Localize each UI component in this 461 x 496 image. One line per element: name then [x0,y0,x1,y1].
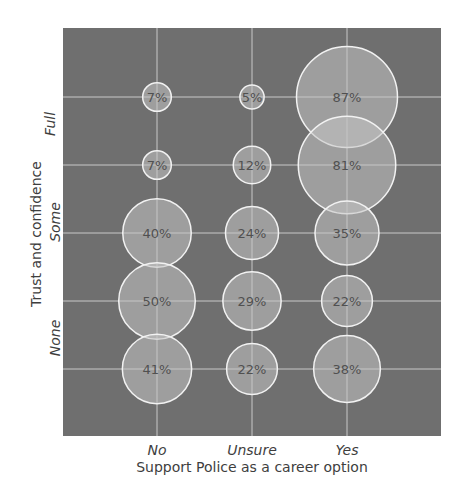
bubble: 7% [143,151,172,180]
bubble-label: 29% [238,294,267,309]
x-tick-yes: Yes [336,442,359,458]
bubbles-layer: 7%5%87%7%12%81%40%24%35%50%29%22%41%22%3… [119,47,398,404]
bubble-label: 87% [333,90,362,105]
bubble-chart: 7%5%87%7%12%81%40%24%35%50%29%22%41%22%3… [0,0,461,496]
bubble: 5% [240,85,264,109]
bubble: 7% [143,83,172,112]
bubble-label: 35% [333,226,362,241]
bubble: 22% [322,276,373,327]
bubble: 24% [225,206,278,259]
bubble: 35% [315,201,379,265]
bubble-label: 7% [147,158,168,173]
bubble-label: 5% [242,90,263,105]
bubble-label: 50% [143,294,172,309]
bubble: 12% [233,146,271,184]
bubble-label: 41% [143,362,172,377]
bubble: 41% [122,334,191,403]
x-tick-unsure: Unsure [227,442,277,458]
bubble: 29% [223,272,281,330]
bubble-label: 7% [147,90,168,105]
bubble: 81% [298,116,395,213]
bubble-label: 38% [333,362,362,377]
bubble: 50% [119,263,196,340]
bubble-label: 24% [238,226,267,241]
y-tick-full: Full [42,104,58,144]
bubble-label: 12% [238,158,267,173]
bubble: 40% [123,199,191,267]
bubble-label: 40% [143,226,172,241]
x-axis-title: Support Police as a career option [136,459,368,475]
bubble-label: 22% [333,294,362,309]
bubble: 38% [314,336,381,403]
y-tick-some: Some [47,197,63,247]
y-axis-title: Trust and confidence [28,154,44,314]
y-tick-none: None [47,313,63,363]
bubble-label: 81% [333,158,362,173]
bubble-label: 22% [238,362,267,377]
bubble: 22% [227,344,278,395]
x-tick-no: No [147,442,166,458]
